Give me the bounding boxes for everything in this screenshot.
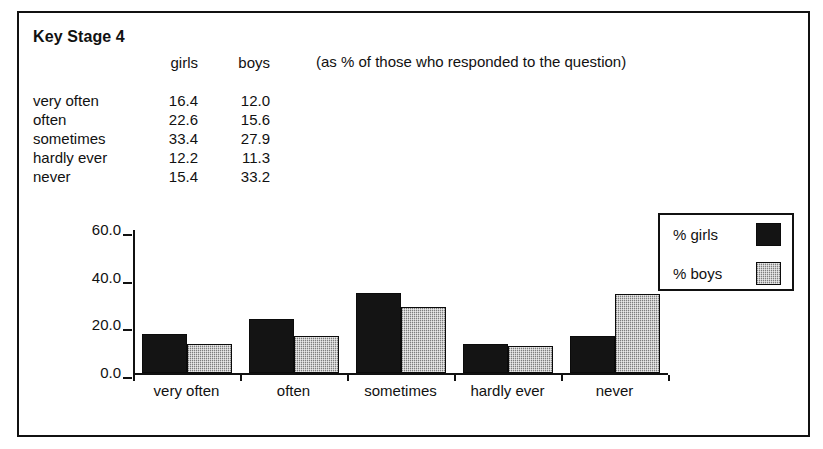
row-label: sometimes [33,129,138,148]
x-axis-category-label: hardly ever [454,382,561,399]
legend-swatch-boys [756,262,781,285]
x-axis-tick-mark [668,375,670,381]
bar-boys [508,346,553,373]
cell-girls: 16.4 [138,91,210,110]
bar-boys [401,307,446,373]
x-axis-tick-mark [454,375,456,381]
x-axis-category-label: very often [133,382,240,399]
legend-item-girls: % girls [660,215,796,254]
bar-boys [615,294,660,373]
x-axis-tick-mark [561,375,563,381]
cell-boys: 15.6 [210,110,282,129]
table-row: sometimes 33.4 27.9 [33,129,282,148]
y-axis-tick-mark [123,234,132,236]
bar-girls [142,334,187,373]
bar-boys [294,336,339,373]
x-axis-tick-mark [347,375,349,381]
column-header-boys: boys [210,53,282,91]
chart-legend: % girls % boys [658,213,794,291]
bar-girls [356,293,401,373]
table-header-row: girls boys [33,53,282,91]
x-axis-category-label: never [561,382,668,399]
column-header-category [33,53,138,91]
row-label: hardly ever [33,148,138,167]
cell-girls: 33.4 [138,129,210,148]
table-row: hardly ever 12.2 11.3 [33,148,282,167]
row-label: often [33,110,138,129]
cell-boys: 33.2 [210,167,282,186]
row-label: never [33,167,138,186]
y-axis-tick-mark [123,377,132,379]
cell-girls: 15.4 [138,167,210,186]
x-axis-category-label: often [240,382,347,399]
table-body: girls boys very often 16.4 12.0 often 22… [33,53,282,186]
x-axis-category-label: sometimes [347,382,454,399]
column-header-girls: girls [138,53,210,91]
y-axis-tick-label: 20.0 [55,317,121,332]
page-title: Key Stage 4 [33,28,125,46]
x-axis-tick-mark [240,375,242,381]
table-row: very often 16.4 12.0 [33,91,282,110]
y-axis-tick-mark [123,329,132,331]
legend-item-boys: % boys [660,254,796,293]
y-axis-line [133,230,135,374]
y-axis-tick-label: 60.0 [55,222,121,237]
bar-boys [187,344,232,373]
table-row: never 15.4 33.2 [33,167,282,186]
legend-label-boys: % boys [673,265,722,282]
cell-boys: 27.9 [210,129,282,148]
cell-girls: 12.2 [138,148,210,167]
legend-swatch-girls [756,223,781,246]
cell-boys: 12.0 [210,91,282,110]
row-label: very often [33,91,138,110]
cell-boys: 11.3 [210,148,282,167]
legend-label-girls: % girls [673,226,718,243]
table-note: (as % of those who responded to the ques… [316,53,626,70]
y-axis-tick-label: 40.0 [55,270,121,285]
bar-chart: 0.020.040.060.0very oftenoftensometimesh… [55,222,675,387]
data-table: girls boys very often 16.4 12.0 often 22… [33,53,282,186]
bar-girls [463,344,508,373]
cell-girls: 22.6 [138,110,210,129]
x-axis-line [133,373,668,375]
screenshot-root: Key Stage 4 girls boys very often 16.4 1… [0,0,823,449]
bar-girls [570,336,615,373]
table-row: often 22.6 15.6 [33,110,282,129]
y-axis-tick-label: 0.0 [55,365,121,380]
x-axis-tick-mark [133,375,135,381]
bar-girls [249,319,294,373]
y-axis-tick-mark [123,282,132,284]
